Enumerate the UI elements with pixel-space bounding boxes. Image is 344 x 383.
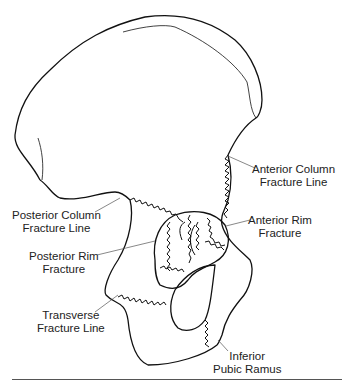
- label-posterior-column-fracture-line: Posterior Column Fracture Line: [12, 209, 101, 234]
- label-anterior-column-fracture-line: Anterior Column Fracture Line: [252, 163, 335, 188]
- label-transverse-fracture-line: Transverse Fracture Line: [37, 309, 105, 334]
- label-inferior-pubic-ramus: Inferior Pubic Ramus: [213, 350, 281, 375]
- iliac-wing-outline: [15, 16, 262, 180]
- label-posterior-rim-fracture: Posterior Rim Fracture: [29, 250, 99, 275]
- bottom-divider: [12, 379, 342, 380]
- label-anterior-rim-fracture: Anterior Rim Fracture: [248, 214, 312, 239]
